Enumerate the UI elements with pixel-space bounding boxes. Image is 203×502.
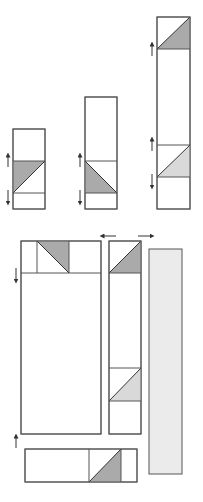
- gray-bar: [149, 249, 182, 474]
- bottom-strip: [25, 449, 137, 482]
- side-column: [109, 241, 141, 434]
- column-short: [13, 129, 45, 209]
- large-panel: [21, 241, 101, 434]
- column-tall: [157, 17, 190, 209]
- quilt-block-diagram: [0, 0, 203, 502]
- column-medium: [85, 97, 117, 209]
